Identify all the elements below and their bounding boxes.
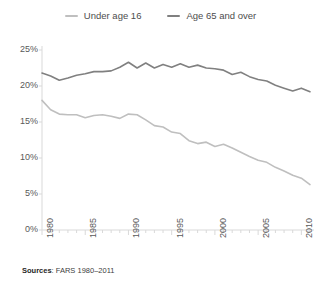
x-tick-label: 2000 xyxy=(219,218,228,238)
x-tick-label: 1990 xyxy=(132,218,141,238)
x-tick-label: 1995 xyxy=(176,218,185,238)
source-note-label: Sources xyxy=(22,266,52,275)
x-tick-label: 1980 xyxy=(46,218,55,238)
source-note-text: FARS 1980–2011 xyxy=(54,266,115,275)
source-note: Sources: FARS 1980–2011 xyxy=(22,266,114,276)
x-tick-label: 1985 xyxy=(89,218,98,238)
x-tick-label: 2005 xyxy=(262,218,271,238)
chart-figure: Under age 16 Age 65 and over 0%5%10%15%2… xyxy=(0,0,321,295)
x-tick-label: 2010 xyxy=(305,218,314,238)
x-axis-tick-labels: 1980198519901995200020052010 xyxy=(0,0,321,295)
